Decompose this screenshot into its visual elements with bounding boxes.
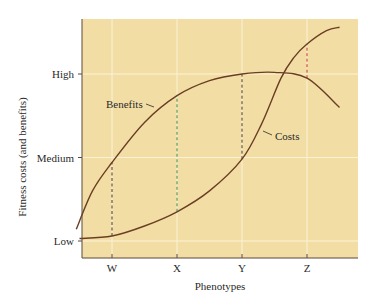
- x-tick-label: W: [107, 262, 118, 274]
- costs-label: Costs: [275, 130, 299, 142]
- y-axis-ticks: LowMediumHigh: [37, 68, 82, 247]
- x-tick-label: Z: [304, 262, 311, 274]
- x-axis-title: Phenotypes: [195, 280, 246, 292]
- y-axis-title: Fitness costs (and benefits): [16, 97, 29, 217]
- y-tick-label: High: [52, 68, 75, 80]
- plot-area: [82, 19, 358, 258]
- y-tick-label: Medium: [37, 152, 75, 164]
- chart: LowMediumHigh WXYZ Benefits Costs Phenot…: [0, 0, 375, 308]
- x-tick-label: Y: [238, 262, 246, 274]
- benefits-label: Benefits: [106, 98, 143, 110]
- y-tick-label: Low: [54, 235, 74, 247]
- x-tick-label: X: [173, 262, 181, 274]
